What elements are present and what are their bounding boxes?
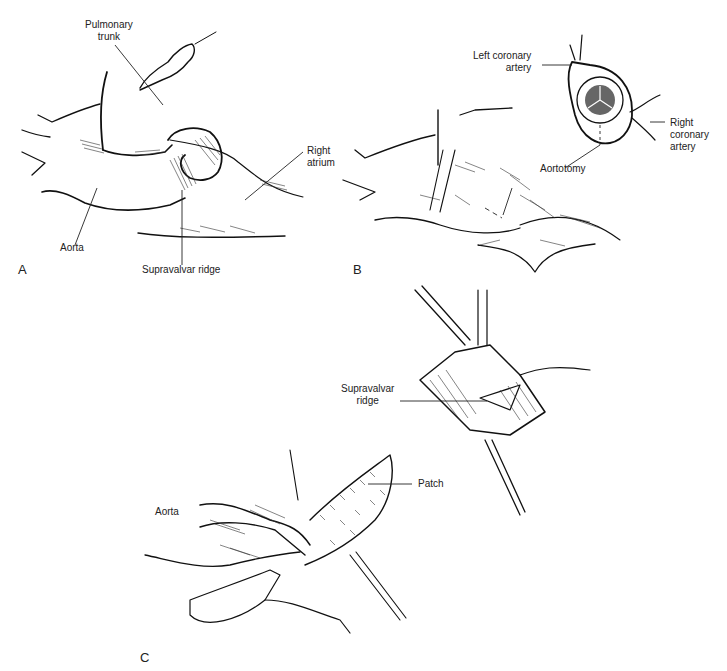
aorta-contour-line [460, 108, 512, 115]
coronary-vessel [520, 368, 590, 375]
aortotomy-incision-mark [485, 208, 502, 218]
label-supravalvar-ridge-c: Supravalvar ridge [341, 383, 394, 407]
aortotomy-opening [420, 345, 545, 435]
label-left-coronary-artery: Left coronary artery [473, 50, 531, 74]
panel-c-drawing [145, 286, 590, 633]
panel-letter-c: C [140, 650, 149, 665]
pulmonary-trunk-contour [101, 72, 107, 150]
lower-contour [138, 233, 285, 237]
supravalvar-ridge-detail [480, 385, 520, 410]
label-aorta-c: Aorta [155, 506, 179, 518]
leader-right-atrium [245, 152, 303, 200]
label-right-coronary-artery: Right coronary artery [670, 117, 709, 153]
aorta-contour-line [520, 217, 620, 240]
panel-letter-b: B [353, 262, 362, 277]
aorta-contour-line [375, 218, 520, 233]
heart-apex [190, 570, 280, 622]
label-pulmonary-trunk: Pulmonary trunk [85, 19, 133, 43]
aorta-upper-contour [38, 104, 100, 122]
right-coronary-vessel [630, 95, 660, 140]
aorta-top-edge [103, 145, 172, 155]
retractor-instrument [415, 286, 470, 345]
label-right-atrium: Right atrium [307, 145, 335, 169]
label-aortotomy: Aortotomy [540, 163, 586, 175]
aorta-bottom-edge [42, 191, 185, 210]
aorta-contour [145, 552, 300, 566]
panel-a-hatching [80, 136, 287, 233]
aortotomy-hatching [430, 370, 536, 420]
patch-hatching [210, 472, 385, 558]
leader-aortotomy-lower [503, 188, 512, 215]
leader-aorta-a [75, 188, 97, 245]
label-supravalvar-ridge-a: Supravalvar ridge [142, 264, 220, 276]
aorta-contour-line [22, 130, 50, 137]
panel-letter-a: A [18, 262, 27, 277]
vessel-stub [195, 32, 216, 44]
aorta-contour [200, 523, 305, 555]
aorta-contour-line [22, 152, 45, 175]
aorta-contour-line [343, 180, 375, 200]
label-aorta-a: Aorta [60, 242, 84, 254]
aorta-contour [265, 600, 350, 633]
aorta-contour-line [355, 135, 435, 158]
patch [305, 455, 392, 565]
forceps-instrument [478, 290, 487, 345]
left-coronary-vessel [570, 35, 582, 60]
label-patch: Patch [418, 478, 444, 490]
suture [290, 450, 298, 500]
retraction-tape [430, 150, 455, 212]
panel-a-drawing [22, 32, 303, 237]
surgical-illustration [0, 0, 727, 671]
leader-pulmonary-trunk [115, 45, 163, 105]
lower-retractor [485, 440, 525, 515]
heart-base [478, 244, 595, 272]
suction-instrument [350, 552, 406, 620]
pulmonary-trunk-tip [140, 44, 194, 90]
